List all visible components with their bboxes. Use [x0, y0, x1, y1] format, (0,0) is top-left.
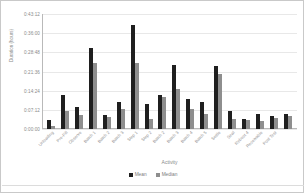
x-tick-slot: Settle: [211, 130, 225, 160]
bar-group[interactable]: [58, 14, 72, 129]
x-axis-title: Activity: [42, 159, 297, 165]
bar-median[interactable]: [149, 119, 153, 129]
bar-median[interactable]: [51, 126, 55, 129]
y-tick-label: 0:21:36: [4, 69, 40, 74]
bar-group[interactable]: [72, 14, 86, 129]
bar-groups: [42, 14, 297, 129]
x-tick-slot: Batch 3: [169, 130, 183, 160]
bar-group[interactable]: [225, 14, 239, 129]
x-tick-label: Seal: [226, 130, 236, 140]
bar-median[interactable]: [260, 121, 264, 129]
chart-container: Duration (hours) 0:00:000:07:120:14:240:…: [0, 0, 304, 193]
bar-median[interactable]: [288, 116, 292, 129]
x-tick-slot: Pre-Fill: [58, 130, 72, 160]
plot-area: [42, 14, 297, 129]
x-tick-slot: Step 2: [142, 130, 156, 160]
bar-median[interactable]: [93, 63, 97, 129]
bar-median[interactable]: [218, 74, 222, 129]
y-tick-label: 0:36:00: [4, 31, 40, 36]
x-tick-slot: Batch 5: [197, 130, 211, 160]
bar-group[interactable]: [253, 14, 267, 129]
x-tick-label: Unloading: [37, 130, 54, 147]
bar-group[interactable]: [128, 14, 142, 129]
bar-median[interactable]: [204, 114, 208, 129]
bar-median[interactable]: [232, 119, 236, 129]
bar-group[interactable]: [267, 14, 281, 129]
legend-swatch-icon: [156, 173, 160, 177]
x-tick-slot: Unloading: [44, 130, 58, 160]
bar-median[interactable]: [190, 109, 194, 129]
y-tick-label: 0:07:12: [4, 107, 40, 112]
x-tick-slot: Batch 3: [114, 130, 128, 160]
legend-item[interactable]: Mean: [129, 172, 147, 177]
x-tick-label: Settle: [210, 130, 221, 141]
bar-group[interactable]: [169, 14, 183, 129]
y-tick-label: 0:00:00: [4, 127, 40, 132]
y-axis-tick-labels: 0:00:000:07:120:14:240:21:360:28:480:36:…: [1, 14, 40, 129]
bar-group[interactable]: [114, 14, 128, 129]
bar-group[interactable]: [86, 14, 100, 129]
bar-group[interactable]: [239, 14, 253, 129]
bar-median[interactable]: [246, 120, 250, 129]
bar-group[interactable]: [100, 14, 114, 129]
x-tick-label: Step 2: [140, 130, 152, 142]
bar-group[interactable]: [156, 14, 170, 129]
y-tick-label: 0:14:24: [4, 88, 40, 93]
bar-median[interactable]: [274, 118, 278, 129]
x-tick-slot: Step 1: [128, 130, 142, 160]
bar-group[interactable]: [183, 14, 197, 129]
x-axis-tick-labels: UnloadingPre-FillObserveBatch 1Batch 2Ba…: [42, 130, 297, 160]
x-tick-slot: Batch 4: [183, 130, 197, 160]
x-tick-slot: Batch 2: [156, 130, 170, 160]
x-tick-slot: Batch 1: [86, 130, 100, 160]
bottom-divider: [2, 185, 304, 186]
legend-label: Mean: [135, 172, 147, 177]
x-tick-slot: [281, 130, 295, 160]
bar-group[interactable]: [142, 14, 156, 129]
bar-group[interactable]: [281, 14, 295, 129]
bar-median[interactable]: [79, 115, 83, 129]
legend-label: Median: [162, 172, 178, 177]
bar-median[interactable]: [65, 111, 69, 129]
bar-median[interactable]: [176, 89, 180, 129]
y-tick-label: 0:28:48: [4, 50, 40, 55]
bar-median[interactable]: [107, 117, 111, 129]
bar-group[interactable]: [44, 14, 58, 129]
y-tick-label: 0:43:12: [4, 12, 40, 17]
bar-median[interactable]: [121, 109, 125, 129]
x-tick-slot: Observe: [72, 130, 86, 160]
legend-item[interactable]: Median: [156, 172, 178, 177]
bar-median[interactable]: [135, 63, 139, 129]
x-tick-label: Step 1: [126, 130, 138, 142]
bar-median[interactable]: [162, 97, 166, 129]
chart-legend: MeanMedian: [1, 172, 304, 177]
x-tick-slot: Batch 2: [100, 130, 114, 160]
bar-group[interactable]: [197, 14, 211, 129]
x-tick-slot: Post Test: [267, 130, 281, 160]
bar-group[interactable]: [211, 14, 225, 129]
legend-swatch-icon: [129, 173, 133, 177]
